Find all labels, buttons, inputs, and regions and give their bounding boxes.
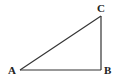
vertex-label-b: B [104,64,112,76]
vertex-label-c: C [97,2,105,14]
edge-ac [20,16,101,70]
triangle-diagram: A B C [0,0,121,80]
vertex-label-a: A [8,64,16,76]
